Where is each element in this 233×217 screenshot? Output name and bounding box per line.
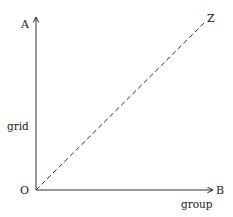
diagonal-end-label-z: Z bbox=[207, 13, 215, 24]
axis-end-label-b: B bbox=[216, 185, 224, 196]
axes-diagram bbox=[0, 0, 233, 217]
vertical-axis-name-label: grid bbox=[7, 121, 29, 132]
diagonal-dashed-line bbox=[36, 22, 205, 190]
horizontal-axis-name-label: group bbox=[181, 199, 213, 210]
axis-end-label-a: A bbox=[21, 19, 29, 30]
origin-label-o: O bbox=[20, 185, 29, 196]
